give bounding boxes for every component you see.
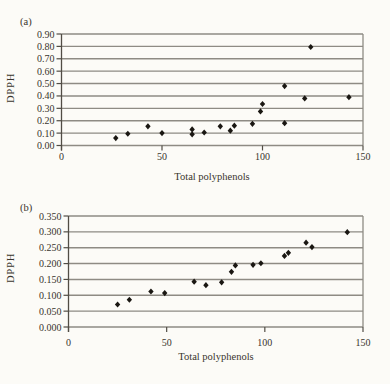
data-point xyxy=(125,131,130,137)
data-point xyxy=(258,108,263,114)
data-point xyxy=(346,94,351,100)
data-point xyxy=(286,250,291,256)
y-tick-label: 0.200 xyxy=(39,258,62,269)
y-tick-label: 0.20 xyxy=(37,115,55,126)
data-point xyxy=(115,301,120,307)
y-axis-title: DPPH xyxy=(5,73,16,103)
data-point xyxy=(127,297,132,303)
data-point xyxy=(232,123,237,129)
x-tick-label: 100 xyxy=(255,151,270,162)
x-tick-label: 100 xyxy=(257,337,272,348)
y-tick-label: 0.100 xyxy=(39,290,62,301)
data-point xyxy=(218,123,223,129)
data-point xyxy=(282,253,287,259)
y-tick-label: 0.150 xyxy=(39,274,62,285)
y-tick-label: 0.60 xyxy=(37,66,55,77)
scatter-chart-b: 0.3500.3000.2500.2000.1500.1000.0500.000… xyxy=(0,192,390,384)
x-axis-title: Total polyphenols xyxy=(174,171,249,182)
data-point xyxy=(250,262,255,268)
x-tick-label: 0 xyxy=(66,337,71,348)
y-tick-label: 0.80 xyxy=(37,41,55,52)
x-tick-label: 50 xyxy=(157,151,167,162)
y-axis-title: DPPH xyxy=(5,253,16,283)
data-point xyxy=(113,135,118,141)
y-tick-label: 0.40 xyxy=(37,90,55,101)
y-tick-label: 0.300 xyxy=(39,226,62,237)
scatter-chart-a: 0.900.800.700.600.500.400.300.200.100.00… xyxy=(0,0,390,192)
data-point xyxy=(303,240,308,246)
data-point xyxy=(202,129,207,135)
data-point xyxy=(250,121,255,127)
data-point xyxy=(308,44,313,50)
data-point xyxy=(145,123,150,129)
x-tick-label: 150 xyxy=(356,151,371,162)
y-tick-label: 0.00 xyxy=(37,140,55,151)
y-tick-label: 0.50 xyxy=(37,78,55,89)
figure-page: 0.900.800.700.600.500.400.300.200.100.00… xyxy=(0,0,390,384)
y-tick-label: 0.90 xyxy=(37,29,55,40)
x-axis-title: Total polyphenols xyxy=(178,351,253,362)
y-tick-label: 0.350 xyxy=(39,211,62,222)
x-tick-label: 0 xyxy=(59,151,64,162)
data-point xyxy=(159,130,164,136)
data-point xyxy=(229,269,234,275)
y-tick-label: 0.10 xyxy=(37,128,55,139)
y-tick-label: 0.30 xyxy=(37,103,55,114)
data-point xyxy=(258,260,263,266)
data-point xyxy=(309,244,314,250)
y-tick-label: 0.250 xyxy=(39,242,62,253)
panel-label: (b) xyxy=(20,202,33,214)
x-tick-label: 50 xyxy=(162,337,172,348)
x-tick-label: 150 xyxy=(356,337,371,348)
y-tick-label: 0.000 xyxy=(39,322,62,333)
y-tick-label: 0.050 xyxy=(39,306,62,317)
data-point xyxy=(203,282,208,288)
data-point xyxy=(260,101,265,107)
y-tick-label: 0.70 xyxy=(37,53,55,64)
data-point xyxy=(148,288,153,294)
data-point xyxy=(189,126,194,132)
data-point xyxy=(345,229,350,235)
panel-label: (a) xyxy=(20,16,32,28)
